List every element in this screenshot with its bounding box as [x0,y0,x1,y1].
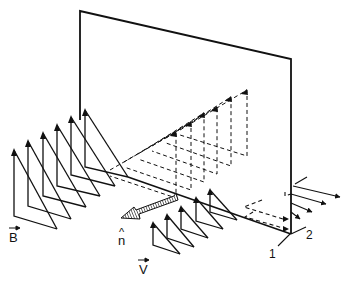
normal-vector-label: n [118,234,125,247]
axis-1-label: 1 [269,248,276,260]
reflected-dashed-triangles [110,90,247,198]
velocity-label: V [139,263,148,276]
incident-arrowheads [11,108,88,156]
wave-reflection-diagram: B ^ n V 1 2 [0,0,351,287]
axis-2-label: 2 [306,229,313,241]
right-side-vectors [244,177,340,246]
magnetic-field-label: B [9,231,18,244]
normal-vector-arrow [121,193,178,219]
diagram-drawing [0,0,351,287]
label-vector-marks [9,226,149,262]
dashed-small-arrowheads [283,216,289,232]
